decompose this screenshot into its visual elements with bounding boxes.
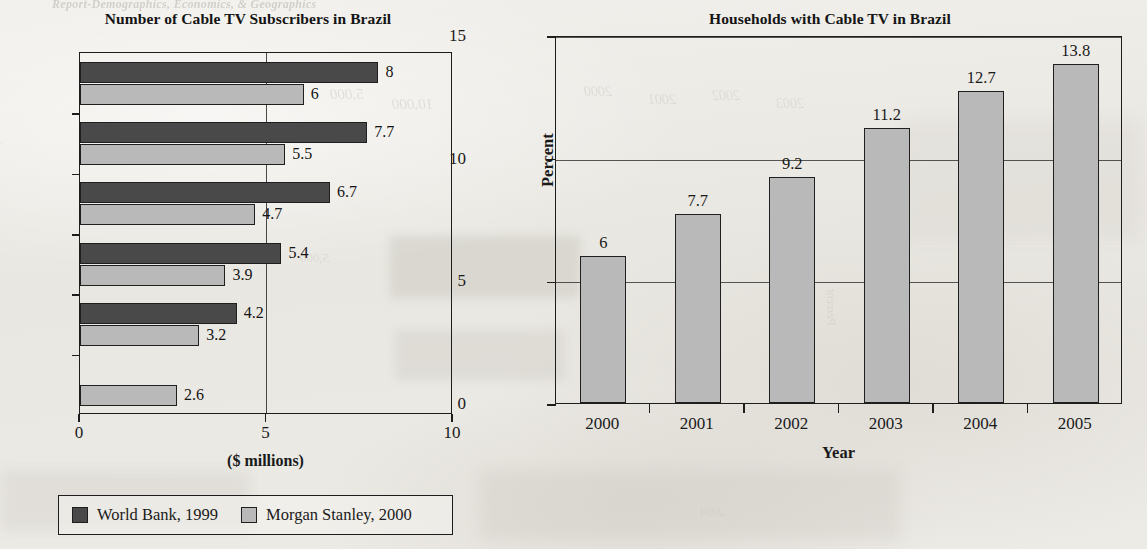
bar-value-label: 3.2: [206, 324, 226, 345]
chart-left-title: Number of Cable TV Subscribers in Brazil: [48, 10, 448, 28]
bar-value-label: 6: [311, 83, 319, 104]
bar-2001: [675, 214, 721, 403]
bar-2005-morgan-stanley: [80, 84, 304, 105]
bar-value-label: 4.7: [262, 203, 282, 224]
bar-value-label: 11.2: [873, 105, 901, 125]
bar-2003: [864, 128, 910, 403]
chart-right-x-axis-title: Year: [555, 443, 1122, 463]
bar-2000-morgan-stanley: [80, 385, 177, 406]
chart-right-x-axis: 200020012002200320042005: [555, 404, 1122, 448]
chart-right-plot-area: 67.79.211.212.713.8 Percent: [555, 36, 1122, 404]
chart-right-title: Households with Cable TV in Brazil: [530, 10, 1130, 28]
x-axis-tick: [78, 414, 80, 422]
legend-label-morgan-stanley: Morgan Stanley, 2000: [266, 505, 412, 525]
bar-value-label: 12.7: [967, 68, 996, 88]
gridline-y-15: [556, 37, 1121, 38]
bar-value-label: 2.6: [184, 384, 204, 405]
y-axis-tick-label: 5: [458, 271, 467, 291]
legend-label-world-bank: World Bank, 1999: [97, 505, 218, 525]
x-axis-tick: [932, 404, 934, 413]
bar-value-label: 6.7: [337, 181, 357, 202]
legend-swatch-world-bank: [72, 507, 88, 523]
bar-2004-world-bank: [80, 122, 367, 143]
x-axis-tick: [838, 404, 840, 413]
y-axis-tick-label: 10: [449, 149, 466, 169]
y-axis-tick: [72, 355, 80, 357]
y-axis-tick: [72, 294, 80, 296]
x-axis-tick: [1027, 404, 1029, 413]
x-axis-tick-label-2001: 2001: [680, 414, 714, 434]
chart-left-plot-area: 867.75.56.74.75.43.94.23.22.6: [79, 52, 452, 414]
bar-2001-morgan-stanley: [80, 325, 199, 346]
y-axis-tick: [72, 234, 80, 236]
x-axis-tick: [451, 414, 453, 422]
x-axis-tick: [649, 404, 651, 413]
chart-cable-tv-subscribers: Number of Cable TV Subscribers in Brazil…: [0, 6, 470, 486]
y-axis-tick-label: 0: [458, 394, 467, 414]
gridline-x-5: [266, 53, 267, 413]
x-axis-tick: [265, 414, 267, 422]
bar-2003-world-bank: [80, 182, 330, 203]
bar-2004-morgan-stanley: [80, 144, 285, 165]
chart-legend: World Bank, 1999 Morgan Stanley, 2000: [58, 495, 453, 535]
gridline-y-5: [556, 282, 1121, 283]
x-axis-tick-label-2002: 2002: [774, 414, 808, 434]
bar-2002-world-bank: [80, 243, 281, 264]
gridline-y-10: [556, 160, 1121, 161]
y-axis-tick: [72, 174, 80, 176]
bar-2005: [1053, 64, 1099, 403]
bar-2000: [580, 256, 626, 403]
chart-right-y-axis-title: Percent: [538, 133, 558, 187]
x-axis-tick-label: 10: [444, 423, 461, 443]
bar-value-label: 7.7: [687, 191, 708, 211]
bar-value-label: 5.5: [292, 143, 312, 164]
legend-swatch-morgan-stanley: [241, 507, 257, 523]
bar-value-label: 3.9: [232, 264, 252, 285]
bar-2004: [958, 91, 1004, 403]
y-axis-tick: [72, 113, 80, 115]
bar-2002-morgan-stanley: [80, 265, 225, 286]
chart-left-x-axis-title: ($ millions): [79, 452, 452, 470]
bar-value-label: 9.2: [782, 154, 803, 174]
x-axis-tick-label-2000: 2000: [585, 414, 619, 434]
x-axis-tick-label-2005: 2005: [1058, 414, 1092, 434]
x-axis-tick: [743, 404, 745, 413]
bar-2001-world-bank: [80, 303, 237, 324]
x-axis-tick-label-2004: 2004: [963, 414, 997, 434]
bar-value-label: 6: [599, 233, 607, 253]
y-axis-tick: [547, 282, 556, 284]
x-axis-tick-label: 0: [75, 423, 84, 443]
bar-value-label: 4.2: [244, 302, 264, 323]
bar-value-label: 7.7: [374, 121, 394, 142]
y-axis-tick: [547, 36, 556, 38]
bar-value-label: 8: [385, 61, 393, 82]
y-axis-tick-label: 15: [449, 26, 466, 46]
x-axis-tick-label-2003: 2003: [869, 414, 903, 434]
bar-value-label: 13.8: [1061, 41, 1090, 61]
x-axis-tick-label: 5: [261, 423, 270, 443]
chart-households-with-cable-tv: Households with Cable TV in Brazil 67.79…: [470, 6, 1147, 486]
bar-2002: [769, 177, 815, 403]
bar-2005-world-bank: [80, 62, 378, 83]
bar-2003-morgan-stanley: [80, 204, 255, 225]
bar-value-label: 5.4: [288, 242, 308, 263]
